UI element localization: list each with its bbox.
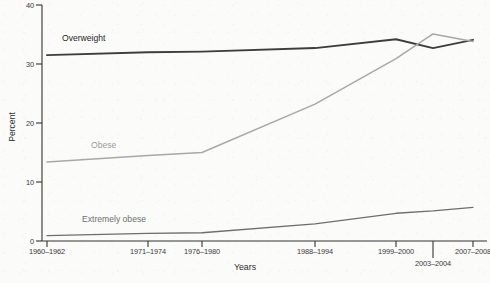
x-tick-label-1960-1962: 1960–1962	[29, 247, 65, 256]
x-tick-label-1971-1974: 1971–1974	[130, 247, 166, 256]
y-tick-label-30: 30	[12, 60, 34, 69]
chart-figure: 40 30 20 10 0 1960–1962 1971–1974 1976–1…	[0, 0, 490, 283]
y-tick-label-0: 0	[12, 237, 34, 246]
y-tick-label-40: 40	[12, 1, 34, 10]
x-tick-label-2007-2008: 2007–2008	[455, 247, 490, 256]
series-label-obese: Obese	[91, 140, 116, 150]
y-axis-title: Percent	[7, 99, 17, 155]
x-tick-label-1976-1980: 1976–1980	[184, 247, 220, 256]
series-label-extremely-obese: Extremely obese	[82, 214, 146, 224]
series-label-overweight: Overweight	[62, 33, 105, 43]
x-tick-label-1988-1994: 1988–1994	[297, 247, 333, 256]
x-tick-label-1999-2000: 1999–2000	[378, 247, 414, 256]
y-tick-label-10: 10	[12, 178, 34, 187]
chart-series-lines	[47, 34, 473, 236]
x-axis-title: Years	[0, 262, 490, 272]
